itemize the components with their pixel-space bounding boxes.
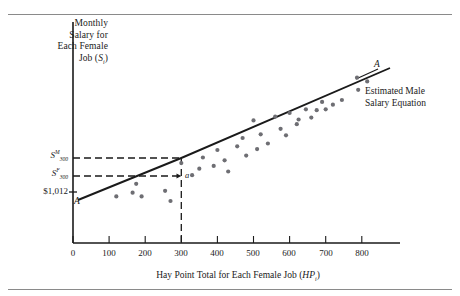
scatter-point — [255, 147, 259, 151]
scatter-point — [331, 103, 335, 107]
x-axis-ticks — [73, 236, 362, 243]
scatter-point — [315, 108, 319, 112]
scatter-point — [304, 107, 308, 111]
x-tick-label-600: 600 — [274, 248, 304, 258]
scatter-point — [168, 199, 172, 203]
scatter-point — [273, 115, 277, 119]
estimated-male-salary-annotation: Estimated Male Salary Equation — [365, 86, 457, 109]
scatter-point — [212, 164, 216, 168]
scatter-point — [340, 98, 344, 102]
x-tick-label-800: 800 — [347, 248, 377, 258]
line-label-end-A: A — [374, 59, 380, 71]
scatter-point — [295, 122, 299, 126]
scatter-point — [223, 158, 227, 162]
y-label-male-salary-300: SM300 — [24, 150, 68, 160]
x-tick-label-400: 400 — [202, 248, 232, 258]
annotation-line-2: Salary Equation — [365, 98, 426, 108]
scatter-point — [134, 182, 138, 186]
scatter-point — [365, 79, 369, 83]
scatter-point — [356, 88, 360, 92]
x-tick-label-100: 100 — [94, 248, 124, 258]
line-label-start-A: A — [74, 196, 80, 208]
x-tick-label-700: 700 — [311, 248, 341, 258]
scatter-points-group — [114, 76, 369, 203]
scatter-point — [259, 132, 263, 136]
x-tick-label-0: 0 — [58, 248, 88, 258]
x-tick-label-200: 200 — [130, 248, 160, 258]
scatter-point — [244, 154, 248, 158]
scatter-point — [324, 107, 328, 111]
y-label-intercept-value: $1,012 — [16, 186, 68, 196]
scatter-point — [288, 111, 292, 115]
estimated-male-salary-line — [78, 68, 390, 200]
figure-container: Monthly Salary for Each Female Job (Si) … — [0, 0, 460, 296]
scatter-point — [201, 155, 205, 159]
scatter-point — [114, 194, 118, 198]
scatter-point — [215, 148, 219, 152]
scatter-point — [309, 116, 313, 120]
scatter-point — [266, 141, 270, 145]
x-tick-label-300: 300 — [166, 248, 196, 258]
gap-arrow-icon — [177, 173, 182, 178]
scatter-point — [163, 189, 167, 193]
gap-label-a: a — [185, 170, 189, 182]
scatter-point — [235, 144, 239, 148]
scatter-point — [284, 133, 288, 137]
scatter-point — [226, 169, 230, 173]
y-label-female-salary-300: SF300 — [24, 168, 68, 178]
scatter-point — [140, 194, 144, 198]
scatter-point — [179, 161, 183, 165]
scatter-point — [355, 76, 359, 80]
x-tick-label-500: 500 — [238, 248, 268, 258]
scatter-point — [197, 167, 201, 171]
scatter-point — [297, 117, 301, 121]
scatter-point — [279, 127, 283, 131]
scatter-point — [320, 100, 324, 104]
scatter-point — [251, 118, 255, 122]
annotation-line-1: Estimated Male — [365, 86, 425, 96]
scatter-point — [241, 136, 245, 140]
scatter-point — [131, 191, 135, 195]
scatter-point — [190, 173, 194, 177]
